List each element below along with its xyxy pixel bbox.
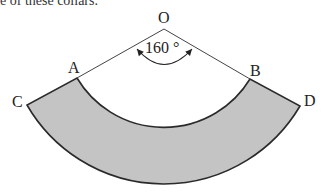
shaded-collar-region	[27, 78, 300, 184]
point-label-B: B	[250, 62, 261, 79]
point-label-C: C	[12, 93, 23, 110]
annulus-sector-diagram: 160 ° O A B C D	[0, 0, 331, 195]
point-label-O: O	[158, 9, 170, 26]
point-label-A: A	[68, 59, 80, 76]
point-label-D: D	[304, 92, 316, 109]
angle-label: 160 °	[145, 39, 179, 56]
